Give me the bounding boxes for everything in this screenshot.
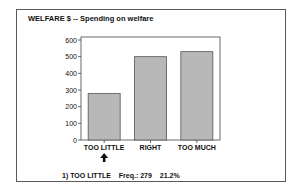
percent-value: 21.2% — [160, 172, 180, 179]
x-tick-labels: TOO LITTLERIGHTTOO MUCH — [84, 144, 216, 151]
y-tick-label: 600 — [65, 37, 77, 44]
y-tick-label: 200 — [65, 103, 77, 110]
bars — [88, 52, 213, 140]
bar[interactable] — [88, 94, 120, 141]
x-tick-label: TOO LITTLE — [84, 144, 125, 151]
y-tick-label: 100 — [65, 120, 77, 127]
y-tick-label: 300 — [65, 87, 77, 94]
bar-chart: TOO LITTLERIGHTTOO MUCH 0100200300400500… — [0, 0, 299, 192]
selection-arrow-icon — [100, 153, 108, 162]
selection-info: 1) TOO LITTLE Freq.: 279 21.2% — [62, 172, 186, 179]
y-tick-label: 500 — [65, 53, 77, 60]
bar[interactable] — [181, 52, 213, 140]
selection-label: 1) TOO LITTLE — [62, 172, 111, 179]
x-tick-label: TOO MUCH — [178, 144, 216, 151]
arrow-shape — [100, 153, 108, 162]
y-tick-labels: 0100200300400500600 — [65, 37, 77, 144]
y-tick-label: 400 — [65, 70, 77, 77]
x-tick-label: RIGHT — [140, 144, 163, 151]
y-tick-label: 0 — [73, 137, 77, 144]
frequency-value: Freq.: 279 — [119, 172, 152, 179]
bar[interactable] — [135, 57, 167, 140]
